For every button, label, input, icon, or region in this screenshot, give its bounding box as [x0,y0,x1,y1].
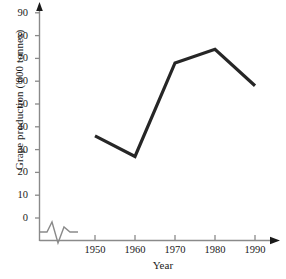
line-chart: 0 10 20 30 40 50 60 70 80 90 1950 1960 1… [0,0,286,279]
x-axis-title: Year [0,259,286,271]
caption-strip [6,271,146,279]
y-axis [36,2,43,241]
x-tick-label: 1980 [195,244,235,255]
data-series-line [95,49,255,156]
arrow-up-icon [36,2,43,11]
x-tick-label: 1950 [75,244,115,255]
chart-plot-area [0,0,286,279]
x-tick-label: 1960 [115,244,155,255]
y-axis-title: Grape production ('000 tonnes) [13,0,27,215]
x-tick-label: 1990 [235,244,275,255]
x-axis-ticks [95,235,255,241]
x-tick-label: 1970 [155,244,195,255]
